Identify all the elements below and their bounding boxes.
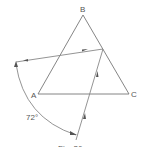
vertex-label-b: B	[80, 5, 85, 14]
vertex-label-c: C	[131, 90, 137, 99]
light-ray	[16, 49, 103, 140]
figure-caption: Fig. 36	[58, 144, 83, 147]
angle-label: 72°	[26, 113, 38, 122]
triangle-abc	[38, 15, 129, 94]
vertex-label-a: A	[31, 91, 37, 100]
arc-arrow-bottom	[70, 131, 77, 135]
angle-arc	[16, 64, 76, 135]
prism-ray-diagram: B A C 72° Fig. 36	[0, 0, 142, 147]
